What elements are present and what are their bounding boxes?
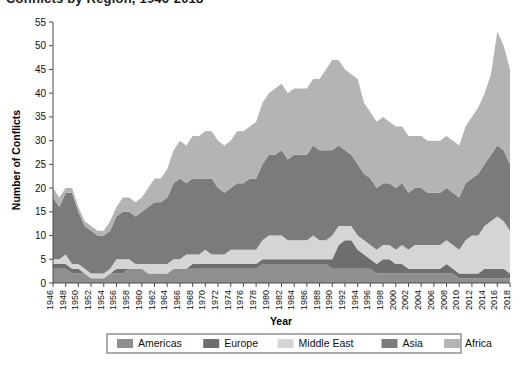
stacked-area-chart: 0510152025303540455055 19461948195019521… — [0, 0, 529, 367]
x-tick-label: 1972 — [210, 290, 220, 310]
legend-label-europe: Europe — [224, 337, 258, 349]
y-tick-label: 35 — [35, 111, 47, 122]
x-tick-label: 1994 — [350, 290, 360, 310]
y-tick-label: 55 — [35, 17, 47, 28]
legend-label-africa: Africa — [465, 337, 492, 349]
y-tick-label: 45 — [35, 64, 47, 75]
y-tick-label: 15 — [35, 206, 47, 217]
x-tick-label: 1970 — [197, 290, 207, 310]
x-tick-label: 1978 — [248, 290, 258, 310]
y-tick-label: 30 — [35, 135, 47, 146]
x-axis-title: Year — [270, 315, 292, 327]
legend-swatch-americas[interactable] — [117, 339, 133, 348]
x-tick-label: 2008 — [439, 290, 449, 310]
chart-figure: Conflicts by Region, 1946-2018 051015202… — [0, 0, 529, 367]
x-tick-label: 1962 — [147, 290, 157, 310]
x-tick-label: 1960 — [134, 290, 144, 310]
chart-legend: AmericasEuropeMiddle EastAsiaAfrica — [107, 334, 492, 353]
y-tick-label: 25 — [35, 159, 47, 170]
x-tick-label: 1974 — [223, 290, 233, 310]
x-tick-label: 2002 — [400, 290, 410, 310]
legend-swatch-middle-east[interactable] — [278, 339, 294, 348]
y-axis-title: Number of Conflicts — [10, 110, 22, 210]
x-tick-label: 2012 — [464, 290, 474, 310]
x-tick-label: 1968 — [185, 290, 195, 310]
x-tick-label: 1946 — [45, 290, 55, 310]
x-tick-label: 2000 — [388, 290, 398, 310]
x-tick-label: 1948 — [58, 290, 68, 310]
x-axis: 1946194819501952195419561958196019621964… — [45, 283, 512, 310]
y-tick-label: 40 — [35, 88, 47, 99]
x-tick-label: 2006 — [426, 290, 436, 310]
y-tick-label: 50 — [35, 40, 47, 51]
x-tick-label: 1984 — [286, 290, 296, 310]
x-tick-label: 1952 — [83, 290, 93, 310]
x-tick-label: 1988 — [312, 290, 322, 310]
x-tick-label: 1954 — [96, 290, 106, 310]
x-tick-label: 1986 — [299, 290, 309, 310]
x-tick-label: 2014 — [477, 290, 487, 310]
x-tick-label: 2016 — [489, 290, 499, 310]
legend-label-americas: Americas — [138, 337, 182, 349]
x-tick-label: 1966 — [172, 290, 182, 310]
legend-label-asia: Asia — [403, 337, 424, 349]
y-tick-label: 5 — [40, 254, 46, 265]
x-tick-label: 1982 — [274, 290, 284, 310]
x-tick-label: 1950 — [70, 290, 80, 310]
x-tick-label: 1976 — [235, 290, 245, 310]
legend-swatch-africa[interactable] — [444, 339, 460, 348]
x-tick-label: 2010 — [451, 290, 461, 310]
legend-label-middle-east: Middle East — [299, 337, 354, 349]
x-tick-label: 1964 — [159, 290, 169, 310]
x-tick-label: 1980 — [261, 290, 271, 310]
legend-swatch-europe[interactable] — [203, 339, 219, 348]
x-tick-label: 1958 — [121, 290, 131, 310]
x-tick-label: 1996 — [362, 290, 372, 310]
y-tick-label: 10 — [35, 230, 47, 241]
x-tick-label: 1990 — [324, 290, 334, 310]
x-tick-label: 1956 — [108, 290, 118, 310]
x-tick-label: 1992 — [337, 290, 347, 310]
legend-swatch-asia[interactable] — [382, 339, 398, 348]
y-tick-label: 20 — [35, 183, 47, 194]
x-tick-label: 2004 — [413, 290, 423, 310]
y-axis: 0510152025303540455055 — [35, 17, 53, 289]
y-tick-label: 0 — [40, 278, 46, 289]
x-tick-label: 1998 — [375, 290, 385, 310]
x-tick-label: 2018 — [502, 290, 512, 310]
